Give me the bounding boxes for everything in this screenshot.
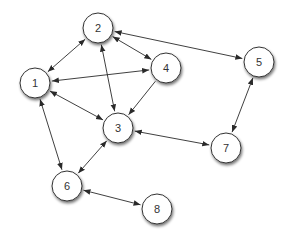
node-4: 4 — [151, 53, 181, 83]
node-label: 5 — [256, 56, 262, 68]
edge-5-7 — [232, 78, 253, 132]
node-2: 2 — [83, 13, 113, 43]
node-7: 7 — [211, 133, 241, 163]
node-label: 3 — [115, 122, 121, 134]
edge-2-3 — [101, 45, 114, 112]
edge-2-4 — [113, 37, 152, 60]
nodes-layer: 12345678 — [20, 13, 274, 224]
edge-3-6 — [78, 141, 107, 173]
edge-1-6 — [40, 99, 62, 170]
node-label: 8 — [154, 203, 160, 215]
node-label: 4 — [163, 62, 169, 74]
node-1: 1 — [20, 68, 50, 98]
edge-6-8 — [83, 190, 140, 205]
node-6: 6 — [52, 171, 82, 201]
node-label: 2 — [95, 22, 101, 34]
node-label: 6 — [64, 180, 70, 192]
node-label: 1 — [32, 77, 38, 89]
node-label: 7 — [223, 142, 229, 154]
node-8: 8 — [142, 194, 172, 224]
edge-1-4 — [52, 70, 149, 81]
edge-3-7 — [135, 131, 210, 145]
edge-4-3 — [129, 81, 156, 114]
edge-1-2 — [48, 39, 85, 72]
edge-1-3 — [50, 91, 103, 120]
node-5: 5 — [244, 47, 274, 77]
edge-2-5 — [115, 32, 243, 59]
node-3: 3 — [103, 113, 133, 143]
graph-diagram: 12345678 — [0, 0, 290, 240]
